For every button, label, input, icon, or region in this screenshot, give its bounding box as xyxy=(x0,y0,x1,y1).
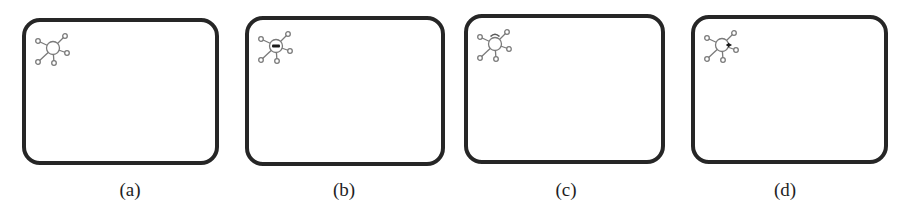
panel-d-caption: (d) xyxy=(755,178,815,202)
hub-network-icon xyxy=(255,26,299,70)
panel-b-box xyxy=(245,16,445,166)
hub-network-icon xyxy=(474,24,518,68)
hub-network-icon xyxy=(32,28,76,72)
panel-c-box xyxy=(464,14,665,164)
panel-a-box xyxy=(22,18,219,165)
panel-a-caption: (a) xyxy=(100,178,160,202)
panel-b-caption: (b) xyxy=(314,178,374,202)
top-cap-marker-icon xyxy=(491,34,500,36)
hub-network-icon xyxy=(701,25,745,69)
panel-d-box xyxy=(691,15,888,164)
panel-c-caption: (c) xyxy=(536,178,596,202)
center-bar-marker-icon xyxy=(272,45,280,48)
